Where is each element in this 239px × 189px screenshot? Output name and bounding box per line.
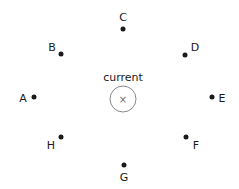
current-label: current [103, 72, 143, 83]
field-point-dot-e [210, 95, 215, 100]
field-point-label-g: G [120, 172, 129, 183]
field-point-dot-d [183, 53, 188, 58]
field-point-label-c: C [119, 12, 127, 23]
field-point-label-f: F [193, 140, 199, 151]
field-point-label-d: D [191, 42, 199, 53]
field-point-dot-c [121, 27, 126, 32]
field-point-dot-h [59, 135, 64, 140]
field-point-label-a: A [19, 93, 27, 104]
field-point-dot-b [59, 52, 64, 57]
field-point-dot-g [122, 163, 127, 168]
field-point-label-h: H [47, 140, 55, 151]
cross-icon: × [119, 94, 127, 104]
physics-diagram-canvas: ABCDEFGH current × [0, 0, 239, 189]
field-point-label-e: E [219, 93, 226, 104]
field-point-dot-f [184, 135, 189, 140]
field-point-dot-a [32, 95, 37, 100]
field-point-label-b: B [48, 42, 56, 53]
current-into-page-symbol: × [110, 86, 137, 113]
